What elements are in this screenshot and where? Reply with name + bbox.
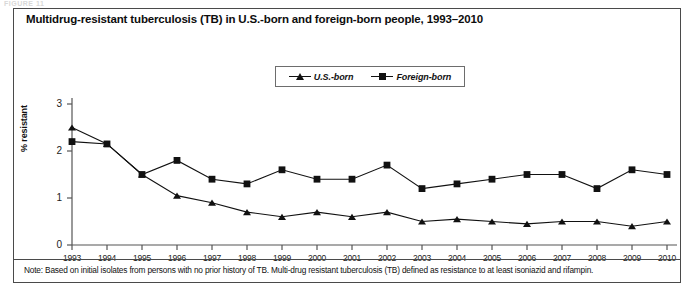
x-tick-1997: 1997 — [195, 253, 229, 263]
y-tick-2: 2 — [46, 145, 62, 156]
x-tick-1993: 1993 — [55, 253, 89, 263]
data-point-Foreign-born-1997 — [209, 176, 216, 183]
data-point-Foreign-born-2004 — [454, 181, 461, 188]
x-tick-2001: 2001 — [335, 253, 369, 263]
x-tick-1996: 1996 — [160, 253, 194, 263]
note-divider — [14, 259, 680, 260]
data-point-U.S.-born-1993 — [68, 124, 76, 130]
data-point-Foreign-born-1998 — [244, 181, 251, 188]
x-tick-2005: 2005 — [475, 253, 509, 263]
data-point-U.S.-born-1997 — [208, 200, 216, 206]
x-tick-2010: 2010 — [650, 253, 684, 263]
data-point-Foreign-born-2007 — [559, 171, 566, 178]
data-point-Foreign-born-2006 — [524, 171, 531, 178]
x-tick-2000: 2000 — [300, 253, 334, 263]
data-point-Foreign-born-2003 — [419, 185, 426, 192]
x-tick-1998: 1998 — [230, 253, 264, 263]
x-tick-1994: 1994 — [90, 253, 124, 263]
page-header-watermark: FIGURE 11 — [4, 0, 44, 7]
x-tick-2002: 2002 — [370, 253, 404, 263]
data-point-Foreign-born-1999 — [279, 166, 286, 173]
x-tick-1999: 1999 — [265, 253, 299, 263]
data-point-Foreign-born-1995 — [139, 171, 146, 178]
x-tick-2007: 2007 — [545, 253, 579, 263]
data-point-Foreign-born-1996 — [174, 157, 181, 164]
data-point-Foreign-born-2002 — [384, 162, 391, 169]
y-tick-1: 1 — [46, 192, 62, 203]
data-point-Foreign-born-2001 — [349, 176, 356, 183]
data-point-Foreign-born-2000 — [314, 176, 321, 183]
x-tick-2003: 2003 — [405, 253, 439, 263]
x-tick-2004: 2004 — [440, 253, 474, 263]
x-tick-2006: 2006 — [510, 253, 544, 263]
y-tick-3: 3 — [46, 98, 62, 109]
data-point-Foreign-born-2008 — [594, 185, 601, 192]
chart-plot-area — [13, 8, 681, 283]
x-tick-2008: 2008 — [580, 253, 614, 263]
data-point-Foreign-born-2010 — [664, 171, 671, 178]
data-point-Foreign-born-2009 — [629, 166, 636, 173]
figure-note: Note: Based on initial isolates from per… — [24, 265, 674, 275]
x-tick-1995: 1995 — [125, 253, 159, 263]
data-point-Foreign-born-1993 — [69, 138, 76, 145]
x-tick-2009: 2009 — [615, 253, 649, 263]
figure-container: FIGURE 11 Multidrug-resistant tuberculos… — [0, 0, 694, 290]
data-point-Foreign-born-2005 — [489, 176, 496, 183]
data-point-Foreign-born-1994 — [104, 141, 111, 148]
y-tick-0: 0 — [46, 239, 62, 250]
